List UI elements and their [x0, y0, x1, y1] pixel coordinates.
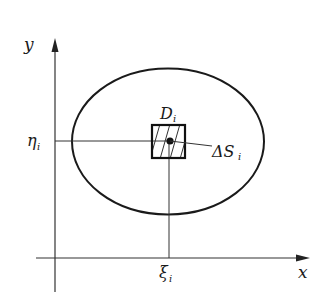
- diagram-canvas: y x D i ΔS i η i ξ i: [0, 0, 329, 300]
- region-label-sub: i: [173, 113, 176, 124]
- delta-s-label-main: ΔS: [211, 142, 235, 161]
- eta-label-sub: i: [37, 141, 40, 152]
- y-axis-label: y: [23, 34, 34, 54]
- x-axis: [36, 255, 310, 262]
- y-axis-arrow-icon: [52, 38, 59, 52]
- y-axis: [52, 38, 59, 292]
- region-label-main: D: [159, 104, 173, 123]
- xi-label-sub: i: [169, 273, 172, 284]
- delta-s-leader-line: [170, 141, 212, 146]
- x-axis-label: x: [298, 262, 308, 282]
- delta-s-label-sub: i: [238, 151, 241, 162]
- x-axis-arrow-icon: [296, 255, 310, 262]
- xi-label-main: ξ: [159, 263, 169, 282]
- eta-label-main: η: [27, 131, 37, 150]
